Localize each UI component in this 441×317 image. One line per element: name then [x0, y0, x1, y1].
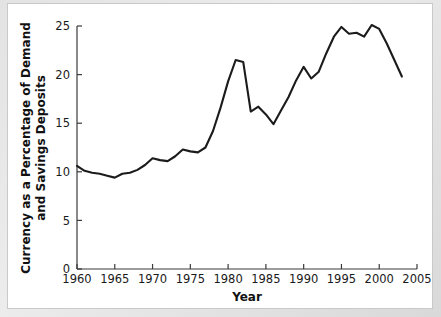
- x-tick-label: 1975: [176, 272, 205, 286]
- x-axis-title: Year: [231, 290, 262, 304]
- x-tick-label: 1970: [138, 272, 167, 286]
- y-tick-label: 15: [55, 116, 70, 130]
- line-chart: 0510152025 19601965197019751980198519901…: [8, 4, 432, 308]
- chart-figure-card: 0510152025 19601965197019751980198519901…: [7, 3, 433, 309]
- y-tick-label: 10: [55, 165, 70, 179]
- y-axis-title-line1: Currency as a Percentage of Demand: [19, 22, 33, 274]
- x-tick-label: 1960: [62, 272, 91, 286]
- screenshot-root: 0510152025 19601965197019751980198519901…: [0, 0, 441, 317]
- x-tick-label: 1990: [289, 272, 318, 286]
- x-tick-label: 1965: [100, 272, 129, 286]
- y-tick-label: 5: [63, 214, 70, 228]
- y-tick-label: 20: [55, 68, 70, 82]
- plot-background: [8, 4, 432, 308]
- y-tick-label: 25: [55, 19, 70, 33]
- x-tick-label: 1980: [213, 272, 242, 286]
- y-axis-title-line2: and Savings Deposits: [34, 75, 48, 221]
- x-tick-label: 1995: [327, 272, 356, 286]
- x-tick-label: 2005: [402, 272, 431, 286]
- x-tick-label: 2000: [365, 272, 394, 286]
- x-tick-label: 1985: [251, 272, 280, 286]
